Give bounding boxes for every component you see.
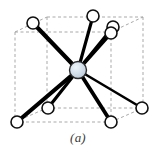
corner-back-bottom-left <box>42 102 54 114</box>
corner-front-top-right <box>105 27 117 39</box>
bond-front-bottom-right <box>78 70 111 122</box>
bcc-unit-cell-figure: (a) <box>0 0 156 157</box>
corner-back-bottom-right <box>136 102 148 114</box>
corner-front-bottom-left <box>11 116 23 128</box>
figure-caption: (a) <box>0 130 156 146</box>
bond-front-top-left <box>33 23 78 70</box>
corner-front-bottom-right <box>105 116 117 128</box>
body-center <box>70 62 87 79</box>
corner-back-top-left <box>87 10 99 22</box>
corner-front-top-left <box>27 17 39 29</box>
center-atom <box>70 62 87 79</box>
bond-back-bottom-right <box>78 70 142 108</box>
